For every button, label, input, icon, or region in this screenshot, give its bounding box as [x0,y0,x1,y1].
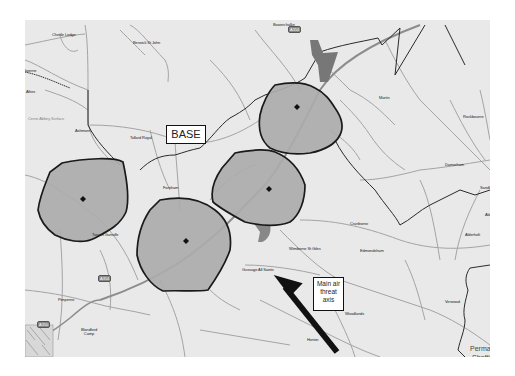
map-canvas[interactable]: Chettle Lodge Berwick St John Bowerchalk… [25,20,490,357]
threat-line-2: threat [314,288,343,296]
road-shield-a350: A350 [37,321,50,328]
place-rockbourne: Rockbourne [463,114,484,119]
place-cranborne: Cranborne [350,221,368,226]
place-shaftin: Shaftin [472,354,490,357]
zone-northeast [259,83,342,154]
map-graphics [25,20,490,357]
threat-line-3: axis [314,296,343,304]
place-blandford: Blandford Camp [78,328,100,336]
place-sandle: Sandle [480,185,490,190]
place-berwick: Berwick St John [133,40,160,45]
place-alderholt: Alderholt [465,232,480,237]
place-damerham: Damerham [445,162,464,167]
place-farnham: Farnham [163,185,178,190]
town-blandford [25,325,53,357]
place-edmondsham: Edmondsham [360,248,384,253]
park-area [310,40,338,82]
road-shield-a354-mid: A354 [98,275,111,282]
water-patch [255,225,271,242]
place-tollard: Tollard Royal [130,135,152,140]
place-alties: Alties [26,89,35,94]
zone-central [212,150,305,226]
place-tarrant: Tarrant Gunville [92,232,118,237]
place-pimperne: Pimperne [58,297,74,302]
place-iwerne: Iwerne [25,68,36,73]
road-shield-a354-top: A354 [288,26,301,33]
zone-south [137,198,230,291]
place-martin: Martin [379,95,390,100]
place-horton: Horton [307,337,318,342]
place-gussage: Gussage All Saints [242,267,274,272]
threat-line-1: Main air [314,280,343,288]
base-label: BASE [166,125,206,144]
place-chettle: Chettle Lodge [52,32,76,37]
threat-axis-label: Main air threat axis [313,277,344,311]
place-verwood: Verwood [445,299,460,304]
place-permalink: Permalin [470,345,490,352]
threat-zones [38,83,342,291]
place-woodlands: Woodlands [345,311,364,316]
place-abbey: Cerne Abbey Surface [28,116,64,121]
place-alder: Alder [485,212,490,217]
place-ashmore: Ashmore [75,128,90,133]
place-wimborne: Wimborne St Giles [289,246,321,251]
